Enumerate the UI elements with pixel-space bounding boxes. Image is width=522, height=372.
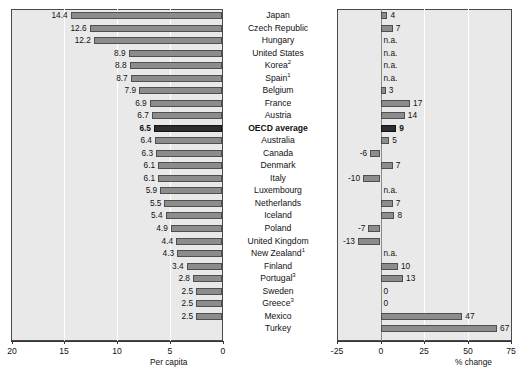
axis-tick-mark: [511, 341, 512, 344]
bar-value-label-per-capita: 5.5: [120, 198, 161, 209]
axis-tick-label: -25: [331, 346, 343, 356]
bar-per-capita: [139, 87, 222, 94]
bar-per-capita: [171, 225, 222, 232]
bar-per-capita: [130, 62, 222, 69]
bar-value-label-na: n.a.: [384, 73, 398, 84]
axis-tick-mark: [12, 341, 13, 344]
category-label: Turkey: [224, 323, 332, 334]
bar-per-capita: [156, 150, 222, 157]
gridline: [468, 9, 469, 341]
bar-value-label-per-capita: 4.3: [133, 248, 174, 259]
axis-tick-mark: [337, 341, 338, 344]
bar-per-capita: [152, 112, 222, 119]
category-label: Portugal3: [224, 273, 332, 284]
chart-figure: 14.412.612.28.98.88.77.96.96.76.56.46.36…: [0, 0, 522, 372]
bar-value-label-per-capita: 6.7: [108, 110, 149, 121]
zero-axis-line: [381, 9, 382, 341]
footnote-marker: 1: [287, 72, 290, 78]
axis-tick-mark: [64, 341, 65, 344]
pct-change-x-axis: -250255075: [0, 345, 522, 359]
category-label: Netherlands: [224, 198, 332, 209]
bar-value-label-per-capita: 12.2: [50, 35, 91, 46]
axis-tick-label: 25: [419, 346, 429, 356]
bar-pct-change: [368, 225, 380, 232]
category-label: Canada: [224, 148, 332, 159]
bar-per-capita: [187, 263, 222, 270]
category-label: Sweden: [224, 286, 332, 297]
bar-value-label-per-capita: 14.4: [27, 10, 68, 21]
category-label: United Kingdom: [224, 236, 332, 247]
bar-per-capita: [131, 75, 222, 82]
category-label: Japan: [224, 10, 332, 21]
axis-tick-mark: [424, 341, 425, 344]
bar-value-label-na: n.a.: [384, 35, 398, 46]
bar-value-label-pct-change: 10: [401, 261, 410, 272]
bar-value-label-pct-change: -13: [333, 236, 355, 247]
category-label: Korea2: [224, 60, 332, 71]
footnote-marker: 2: [288, 59, 291, 65]
bar-per-capita: [196, 288, 222, 295]
bar-value-label-per-capita: 6.5: [110, 123, 151, 134]
category-label: Denmark: [224, 160, 332, 171]
bar-value-label-pct-change: 17: [413, 98, 422, 109]
bar-value-label-per-capita: 3.4: [143, 261, 184, 272]
category-label: Australia: [224, 135, 332, 146]
bar-value-label-per-capita: 2.5: [152, 286, 193, 297]
bar-pct-change: [381, 313, 463, 320]
bar-pct-change: [381, 137, 390, 144]
bar-value-label-per-capita: 6.4: [111, 135, 152, 146]
bar-pct-change: [381, 275, 404, 282]
bar-value-label-pct-change: 7: [396, 160, 401, 171]
bar-value-label-per-capita: 5.4: [122, 210, 163, 221]
bar-per-capita: [94, 37, 222, 44]
bar-value-label-pct-change: 9: [399, 123, 404, 134]
footnote-marker: 3: [292, 272, 295, 278]
bar-per-capita: [196, 300, 222, 307]
bar-pct-change: [381, 125, 397, 132]
bar-per-capita: [196, 313, 222, 320]
gridline: [64, 9, 65, 341]
bar-value-label-per-capita: 6.1: [114, 173, 155, 184]
category-label: Luxembourg: [224, 185, 332, 196]
category-label: Finland: [224, 261, 332, 272]
bar-value-label-pct-change: 3: [389, 85, 394, 96]
category-label-column: JapanCzech RepublicHungaryUnited StatesK…: [224, 9, 335, 341]
axis-tick-label: 0: [379, 346, 384, 356]
bar-value-label-pct-change: 14: [408, 110, 417, 121]
bar-per-capita: [166, 212, 222, 219]
bar-value-label-per-capita: 8.8: [86, 60, 127, 71]
bar-value-label-pct-change: 13: [406, 273, 415, 284]
bar-value-label-per-capita: 4.9: [127, 223, 168, 234]
bar-per-capita: [129, 50, 222, 57]
bar-value-label-pct-change: 0: [384, 286, 389, 297]
bar-per-capita: [177, 250, 222, 257]
axis-tick-label: 50: [463, 346, 473, 356]
bar-value-label-per-capita: 5.9: [116, 185, 157, 196]
category-label: Hungary: [224, 35, 332, 46]
bar-pct-change: [381, 325, 498, 332]
category-label: Austria: [224, 110, 332, 121]
category-label: Spain1: [224, 73, 332, 84]
bar-pct-change: [370, 150, 380, 157]
bar-pct-change: [381, 263, 398, 270]
bar-value-label-pct-change: -10: [338, 173, 360, 184]
bar-value-label-per-capita: 8.7: [87, 73, 128, 84]
bar-pct-change: [381, 162, 393, 169]
bar-pct-change: [358, 238, 381, 245]
bar-value-label-pct-change: 5: [392, 135, 397, 146]
bar-pct-change: [381, 212, 395, 219]
category-label: Italy: [224, 173, 332, 184]
footnote-marker: 3: [290, 297, 293, 303]
bar-per-capita: [158, 162, 222, 169]
bar-value-label-per-capita: 2.5: [152, 298, 193, 309]
bar-value-label-pct-change: 4: [390, 10, 395, 21]
category-label: OECD average: [224, 123, 332, 134]
bar-value-label-pct-change: -6: [345, 148, 367, 159]
bar-value-label-per-capita: 8.9: [85, 48, 126, 59]
bar-value-label-per-capita: 2.5: [152, 311, 193, 322]
bar-pct-change: [363, 175, 380, 182]
axis-tick-mark: [117, 341, 118, 344]
category-label: Mexico: [224, 311, 332, 322]
bar-value-label-pct-change: 7: [396, 198, 401, 209]
bar-value-label-pct-change: -7: [343, 223, 365, 234]
